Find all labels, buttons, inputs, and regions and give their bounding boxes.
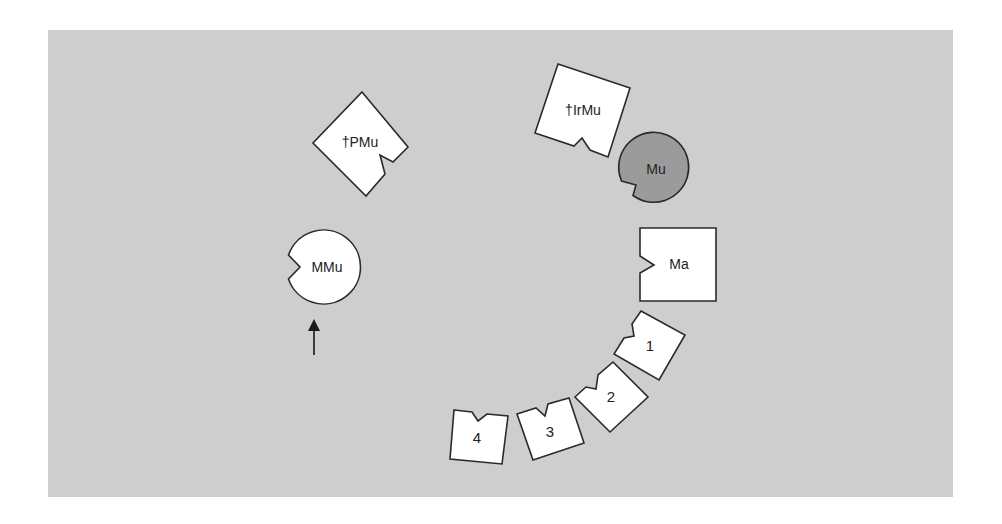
block-4-label: 4 (473, 429, 481, 446)
node-mmu: MMu (289, 230, 361, 304)
up-arrow-icon (308, 319, 320, 355)
mu-label: Mu (646, 161, 665, 177)
node-mu: Mu (619, 132, 689, 202)
block-1-label: 1 (646, 337, 654, 354)
block-2-label: 2 (607, 388, 615, 405)
node-block-1: 1 (614, 311, 685, 380)
block-3-label: 3 (546, 423, 554, 440)
node-block-3: 3 (517, 398, 584, 460)
node-irmu: †IrMu (535, 64, 630, 157)
node-block-2: 2 (575, 362, 648, 432)
ma-label: Ma (669, 256, 689, 272)
diagram-canvas: †PMu †IrMu Mu MMu Ma 1 2 3 4 (0, 0, 1002, 524)
irmu-label: †IrMu (565, 102, 601, 118)
pmu-label: †PMu (342, 134, 379, 150)
mmu-label: MMu (311, 259, 342, 275)
node-ma: Ma (640, 228, 716, 301)
node-pmu: †PMu (313, 92, 408, 196)
node-block-4: 4 (450, 410, 508, 464)
